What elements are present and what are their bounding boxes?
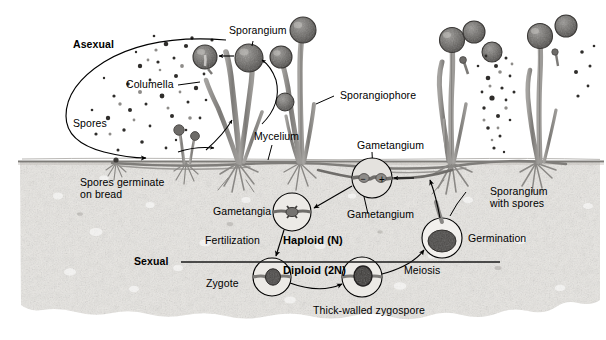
asexual-cycle-label: Asexual (73, 39, 114, 51)
germination-label: Germination (468, 233, 526, 245)
zygospore-inset (342, 257, 382, 297)
fertilization-label: Fertilization (205, 235, 260, 247)
sporangium-head (235, 44, 263, 72)
gametangium-fusion-inset: − + (352, 158, 392, 198)
spore-cloud-right (477, 55, 516, 154)
sporangiophore-cluster-left (113, 44, 263, 163)
svg-text:+: + (379, 174, 385, 185)
gametangia-inset (273, 193, 311, 231)
columella-label: Columella (126, 79, 174, 91)
mycelium-label: Mycelium (254, 131, 299, 143)
sporangiophore-label: Sporangiophore (340, 90, 416, 102)
spores-label: Spores (73, 118, 107, 130)
diploid-label: Diploid (2N) (283, 265, 346, 277)
svg-text:−: − (360, 174, 365, 184)
spore-cloud-left-light (109, 48, 202, 135)
sporangium-with-spores-label: Sporangium with spores (490, 186, 548, 209)
gametangium-bottom-label: Gametangium (347, 209, 414, 221)
gametangia-label: Gametangia (213, 206, 271, 218)
spores-germinate-label: Spores germinate on bread (80, 177, 164, 200)
spore-cloud-far-right (574, 45, 595, 98)
meiosis-label: Meiosis (404, 265, 440, 277)
diagram-artwork: − + (0, 0, 606, 340)
sporangiophore-cluster-right (439, 15, 577, 162)
thick-walled-zygospore-label: Thick-walled zygospore (313, 305, 425, 317)
haploid-label: Haploid (N) (283, 235, 343, 247)
sporangium-label: Sporangium (229, 25, 287, 37)
gametangium-top-label: Gametangium (357, 140, 424, 152)
bread-mold-life-cycle-diagram: − + (0, 0, 606, 340)
zygote-label: Zygote (206, 278, 239, 290)
sexual-cycle-label: Sexual (134, 256, 168, 268)
